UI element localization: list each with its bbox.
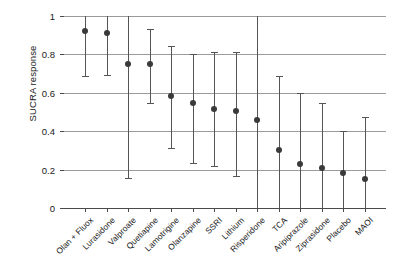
x-tick-mark <box>128 208 129 212</box>
y-tick-mark <box>60 131 64 132</box>
error-bar-cap-upper <box>233 52 240 53</box>
data-point-group[interactable] <box>171 16 172 208</box>
x-tick-mark <box>236 208 237 212</box>
error-bar <box>279 76 280 208</box>
data-point-marker[interactable] <box>104 30 110 36</box>
x-tick-mark <box>279 208 280 212</box>
data-point-marker[interactable] <box>254 117 260 123</box>
y-axis-title: SUCRA response <box>27 4 38 164</box>
error-bar-cap-lower <box>168 148 175 149</box>
error-bar-cap-upper <box>190 54 197 55</box>
data-point-group[interactable] <box>214 16 215 208</box>
error-bar <box>85 16 86 76</box>
data-point-group[interactable] <box>236 16 237 208</box>
data-point-marker[interactable] <box>190 100 196 106</box>
y-tick-label: 0.4 <box>0 126 55 137</box>
data-point-marker[interactable] <box>276 147 282 153</box>
error-bar-cap-upper <box>147 29 154 30</box>
error-bar-cap-upper <box>211 52 218 53</box>
data-point-group[interactable] <box>85 16 86 208</box>
gridline-y-0.2 <box>64 170 386 171</box>
x-tick-mark <box>214 208 215 212</box>
y-tick-mark <box>60 170 64 171</box>
error-bar-cap-upper <box>297 93 304 94</box>
x-tick-mark <box>85 208 86 212</box>
data-point-group[interactable] <box>279 16 280 208</box>
y-tick-mark <box>60 93 64 94</box>
error-bar-cap-upper <box>168 46 175 47</box>
data-point-marker[interactable] <box>147 61 153 67</box>
error-bar <box>322 103 323 208</box>
data-point-group[interactable] <box>343 16 344 208</box>
error-bar-cap-upper <box>340 131 347 132</box>
error-bar <box>107 16 108 75</box>
data-point-marker[interactable] <box>362 176 368 182</box>
gridline-y-0.8 <box>64 54 386 55</box>
x-axis-line <box>64 208 386 209</box>
y-tick-mark <box>60 16 64 17</box>
data-point-group[interactable] <box>193 16 194 208</box>
data-point-marker[interactable] <box>319 165 325 171</box>
error-bar-cap-lower <box>82 76 89 77</box>
y-tick-label: 1 <box>0 11 55 22</box>
error-bar-cap-lower <box>104 75 111 76</box>
error-bar-cap-lower <box>125 178 132 179</box>
y-tick-label: 0 <box>0 203 55 214</box>
data-point-group[interactable] <box>128 16 129 208</box>
y-tick-label: 0.2 <box>0 164 55 175</box>
x-tick-mark <box>257 208 258 212</box>
error-bar <box>193 54 194 162</box>
data-point-marker[interactable] <box>82 28 88 34</box>
error-bar <box>300 93 301 208</box>
plot-area <box>64 16 386 208</box>
x-tick-mark <box>322 208 323 212</box>
y-tick-mark <box>60 54 64 55</box>
data-point-group[interactable] <box>107 16 108 208</box>
data-point-marker[interactable] <box>168 93 174 99</box>
x-tick-mark <box>171 208 172 212</box>
data-point-marker[interactable] <box>233 108 239 114</box>
x-tick-mark <box>150 208 151 212</box>
error-bar-cap-lower <box>233 176 240 177</box>
error-bar <box>257 16 258 208</box>
gridline-y-0.4 <box>64 131 386 132</box>
x-tick-mark <box>107 208 108 212</box>
error-bar <box>128 16 129 178</box>
chart-figure: SUCRA response 00.20.40.60.81Olan + Fluo… <box>0 0 409 280</box>
x-tick-mark <box>343 208 344 212</box>
data-point-group[interactable] <box>365 16 366 208</box>
error-bar-cap-upper <box>362 117 369 118</box>
data-point-marker[interactable] <box>211 106 217 112</box>
error-bar <box>365 117 366 208</box>
data-point-marker[interactable] <box>297 161 303 167</box>
error-bar-cap-lower <box>147 103 154 104</box>
error-bar-cap-lower <box>211 166 218 167</box>
x-tick-mark <box>300 208 301 212</box>
x-tick-mark <box>365 208 366 212</box>
y-tick-label: 0.6 <box>0 87 55 98</box>
data-point-group[interactable] <box>257 16 258 208</box>
x-tick-mark <box>193 208 194 212</box>
error-bar-cap-lower <box>190 163 197 164</box>
gridline-y-1 <box>64 16 386 17</box>
data-point-group[interactable] <box>300 16 301 208</box>
error-bar-cap-upper <box>319 103 326 104</box>
y-tick-label: 0.8 <box>0 49 55 60</box>
data-point-group[interactable] <box>322 16 323 208</box>
data-point-group[interactable] <box>150 16 151 208</box>
gridline-y-0.6 <box>64 93 386 94</box>
x-tick-label-maoi: MAOI <box>352 215 374 237</box>
error-bar-cap-upper <box>276 76 283 77</box>
data-point-marker[interactable] <box>340 170 346 176</box>
data-point-marker[interactable] <box>125 61 131 67</box>
